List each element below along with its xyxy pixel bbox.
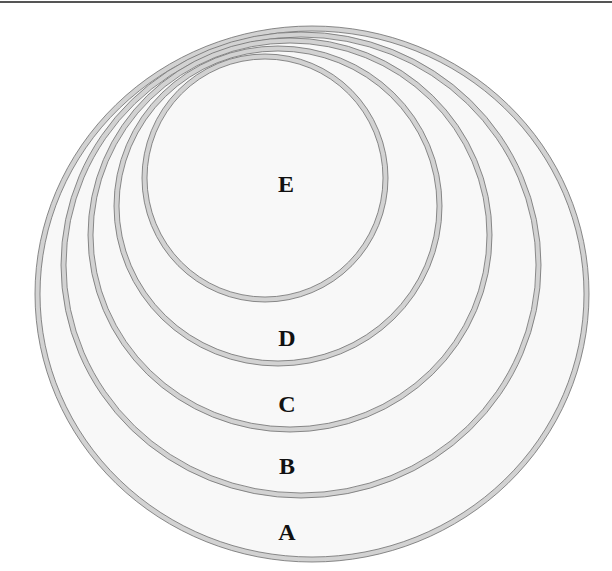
label-a: A <box>278 519 295 546</box>
label-c: C <box>278 391 295 418</box>
nested-circles-diagram <box>0 0 612 571</box>
label-b: B <box>279 453 295 480</box>
label-d: D <box>278 325 295 352</box>
set-e-ring <box>142 54 388 302</box>
label-e: E <box>278 171 294 198</box>
